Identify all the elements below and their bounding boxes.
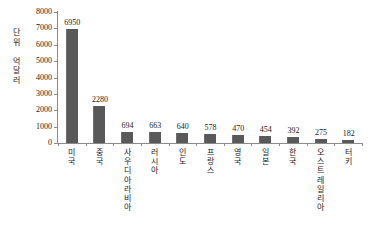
bar-value-label: 470 [232,124,244,133]
x-axis-tick-mark [279,143,280,146]
category-label-char: 한 [286,148,300,157]
y-axis-tick-mark [54,127,58,128]
bar-value-label: 182 [343,129,355,138]
x-axis-tick-mark [86,143,87,146]
y-axis-tick-label: 0 [48,138,52,147]
bar-value-label: 694 [122,121,134,130]
bar-value-label: 392 [287,126,299,135]
y-axis-tick-label: 4000 [36,73,52,82]
x-axis-tick-mark [334,143,335,146]
category-label-char: 아 [314,203,328,212]
bar-value-label: 275 [315,128,327,137]
category-label-char: 리 [314,194,328,203]
category-label-char: 일 [314,185,328,194]
bar-value-label: 663 [149,121,161,130]
y-axis-tick-mark [54,78,58,79]
category-label-char: 국 [65,157,79,166]
category-label-char: 키 [341,157,355,166]
x-axis-category-label: 영국 [231,148,245,166]
bar[interactable]: 470 [232,135,244,143]
y-axis-tick-label: 3000 [36,89,52,98]
x-axis-tick-mark [251,143,252,146]
y-axis-title-char: 단 [8,28,24,38]
category-label-char: 프 [203,148,217,157]
x-axis-tick-mark [141,143,142,146]
category-label-char: 비 [120,194,134,203]
bar[interactable]: 2280 [93,106,105,143]
category-label-char: 국 [231,157,245,166]
y-axis-tick-mark [54,61,58,62]
category-label-char: 아 [120,203,134,212]
y-axis-tick-mark [54,110,58,111]
bar-chart: 단위 억달러 800070006000500040003000200010000… [0,0,371,225]
y-axis-title-char: 위 [8,38,24,48]
plot-area: 800070006000500040003000200010000 695022… [58,12,362,143]
y-axis-tick-label: 5000 [36,56,52,65]
x-axis-category-label: 터키 [341,148,355,166]
y-axis-title-char: 억 [8,57,24,67]
category-label-char: 인 [175,148,189,157]
bar[interactable]: 578 [204,134,216,143]
category-label-char: 중 [92,148,106,157]
bar[interactable]: 694 [121,132,133,143]
bar[interactable]: 392 [287,137,299,143]
category-label-char: 디 [120,166,134,175]
category-label-char: 트 [314,166,328,175]
y-axis-title-char: 달 [8,66,24,76]
bar-value-label: 640 [177,122,189,131]
x-axis-category-label: 중국 [92,148,106,166]
bar-value-label: 2280 [92,95,108,104]
category-label-char: 오 [314,148,328,157]
bar[interactable]: 182 [342,140,354,143]
bar[interactable]: 275 [315,139,327,144]
bar[interactable]: 640 [176,133,188,143]
category-label-char: 우 [120,157,134,166]
x-axis-category-label: 프랑스 [203,148,217,176]
y-axis-tick-mark [54,28,58,29]
bar[interactable]: 454 [259,136,271,143]
x-axis-category-label: 미국 [65,148,79,166]
category-label-char: 스 [203,166,217,175]
bar-value-label: 578 [205,123,217,132]
x-axis-category-label: 인도 [175,148,189,166]
y-axis-title: 단위 억달러 [8,28,24,85]
y-axis-tick-label: 6000 [36,40,52,49]
x-axis-line [57,143,363,144]
x-axis-tick-mark [362,143,363,146]
x-axis-tick-mark [196,143,197,146]
category-label-char: 터 [341,148,355,157]
category-label-char: 라 [120,185,134,194]
x-axis-category-label: 러시아 [148,148,162,176]
x-axis-category-label: 한국 [286,148,300,166]
x-axis-tick-mark [58,143,59,146]
category-label-char: 미 [65,148,79,157]
y-axis-tick-label: 1000 [36,122,52,131]
category-label-char: 사 [120,148,134,157]
y-axis-tick-mark [54,12,58,13]
category-label-char: 도 [175,157,189,166]
x-axis-tick-mark [224,143,225,146]
bar-value-label: 6950 [64,18,80,27]
category-label-char: 국 [286,157,300,166]
category-label-char: 영 [231,148,245,157]
y-axis-tick-label: 8000 [36,7,52,16]
category-label-char: 스 [314,157,328,166]
x-axis-tick-mark [113,143,114,146]
bar[interactable]: 6950 [66,29,78,143]
category-label-char: 일 [258,148,272,157]
category-label-char: 러 [148,148,162,157]
category-label-char: 레 [314,176,328,185]
x-axis-category-label: 사우디아라비아 [120,148,134,212]
category-label-char: 국 [92,157,106,166]
category-label-char: 본 [258,157,272,166]
y-axis-tick-label: 2000 [36,105,52,114]
x-axis-tick-mark [169,143,170,146]
bar[interactable]: 663 [149,132,161,143]
y-axis-title-char: 러 [8,76,24,86]
category-label-char: 랑 [203,157,217,166]
x-axis-tick-mark [307,143,308,146]
y-axis-tick-mark [54,94,58,95]
x-axis-category-label: 오스트레일리아 [314,148,328,212]
y-axis-tick-label: 7000 [36,23,52,32]
y-axis-tick-mark [54,45,58,46]
